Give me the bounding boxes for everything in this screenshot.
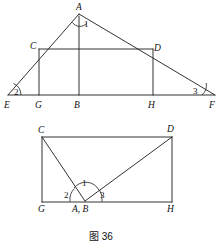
angle-arc-2-bottom — [70, 189, 75, 202]
angle-arc-1-bottom — [74, 182, 99, 190]
top-figure-group — [8, 14, 215, 95]
vertex-label-B-top: B — [74, 101, 80, 111]
vertex-label-D-bottom: D — [167, 125, 174, 135]
figure-caption: 图 36 — [89, 232, 113, 242]
angle-label-2-top: 2 — [14, 88, 19, 97]
vertex-label-F-top: F — [209, 101, 215, 111]
angle-label-3-top: 3 — [193, 87, 198, 96]
segment-AF — [79, 14, 215, 95]
vertex-label-D-top: D — [154, 44, 161, 54]
figure-canvas — [0, 0, 223, 251]
angle-label-1-top: 1 — [84, 20, 89, 29]
vertex-label-E-top: E — [4, 101, 10, 111]
angle-label-3-bottom: 3 — [100, 191, 105, 200]
geometry-figure-page: A C D E G B H F 1 2 3 C D G H A, B 1 2 3… — [0, 0, 223, 251]
vertex-label-G-bottom: G — [38, 205, 45, 215]
vertex-label-C-top: C — [30, 42, 36, 52]
vertex-label-G-top: G — [35, 101, 42, 111]
vertex-label-A-top: A — [76, 3, 82, 13]
bottom-figure-group — [42, 137, 172, 202]
angle-label-1-bottom: 1 — [82, 179, 87, 188]
segment-D-to-AB — [85, 137, 172, 201]
vertex-label-AB-bottom: A, B — [72, 205, 88, 215]
vertex-label-H-bottom: H — [167, 205, 174, 215]
vertex-label-C-bottom: C — [38, 126, 44, 136]
segment-EA — [8, 14, 79, 95]
vertex-label-H-top: H — [148, 101, 155, 111]
angle-label-2-bottom: 2 — [64, 191, 69, 200]
